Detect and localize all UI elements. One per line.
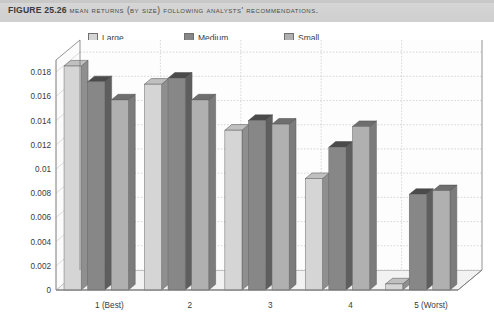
bar [329,141,353,290]
y-axis-labels: 0.0180.0160.0140.0120.010.0080.0060.0040… [31,68,52,295]
x-axis-tick-label: 4 [348,301,353,310]
bar [272,118,296,290]
figure-header: FIGURE 25.26 Mean returns (by size) foll… [0,0,494,23]
bar-chart-plot: 0.0180.0160.0140.0120.010.0080.0060.0040… [0,22,494,315]
bar [64,60,88,290]
y-axis-tick-label: 0.012 [31,141,52,150]
bar [88,76,112,290]
x-axis-labels: 1 (Best)2345 (Worst) [95,301,448,310]
y-axis-tick-label: 0.006 [31,213,52,222]
figure-caption-text: Mean returns (by size) following analyst… [70,6,319,15]
bar [144,79,168,290]
bar [168,72,192,290]
y-axis-tick-label: 0.018 [31,68,52,77]
x-axis-tick-label: 3 [268,301,273,310]
y-axis-tick-label: 0.008 [31,189,52,198]
bar [111,94,135,290]
chart-area: Large Medium Small 0.0180.0160.0140.0120… [0,22,494,315]
y-axis-tick-label: 0.002 [31,262,52,271]
bar [352,121,376,290]
y-axis-tick-label: 0.01 [35,165,51,174]
bar [225,125,249,290]
y-axis-tick-label: 0.016 [31,92,52,101]
bar [192,94,216,290]
y-axis-tick-label: 0.004 [31,238,52,247]
figure-caption: FIGURE 25.26 Mean returns (by size) foll… [8,5,318,15]
bar [248,115,272,290]
bar [305,173,329,290]
bar [433,185,457,290]
bar [409,189,433,290]
figure-number: FIGURE 25.26 [8,5,67,15]
y-axis-tick-label: 0.014 [31,117,52,126]
y-axis-tick-label: 0 [46,286,51,295]
x-axis-tick-label: 2 [188,301,193,310]
header-top-rule [0,0,494,3]
x-axis-tick-label: 1 (Best) [95,301,124,310]
x-axis-tick-label: 5 (Worst) [414,301,448,310]
